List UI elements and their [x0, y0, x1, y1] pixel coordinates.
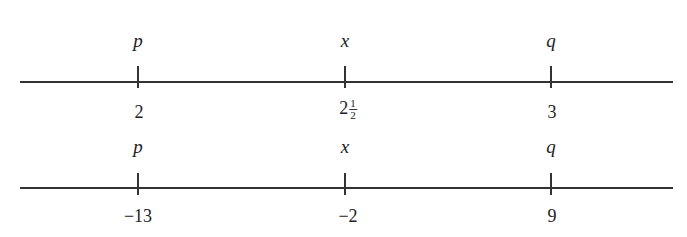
point-label-q: q — [546, 136, 556, 158]
mixed-number-whole: 2 — [339, 98, 348, 118]
point-label-x: x — [341, 136, 349, 158]
tick-q — [550, 66, 552, 88]
point-label-p: p — [133, 136, 143, 158]
number-line-1: p x q 2 212 3 — [0, 0, 687, 110]
tick-p — [137, 173, 139, 195]
point-label-p: p — [133, 30, 143, 52]
point-value-x: 212 — [339, 98, 357, 121]
number-line-2: p x q −13 −2 9 — [0, 120, 687, 230]
axis-line — [20, 187, 673, 189]
tick-x — [344, 173, 346, 195]
tick-p — [137, 66, 139, 88]
axis-line — [20, 81, 673, 83]
point-value-q: 9 — [548, 206, 557, 227]
point-value-x: −2 — [338, 206, 357, 227]
point-label-q: q — [546, 30, 556, 52]
point-label-x: x — [341, 30, 349, 52]
tick-q — [550, 173, 552, 195]
tick-x — [344, 66, 346, 88]
point-value-p: −13 — [124, 206, 152, 227]
mixed-number-fraction: 12 — [349, 98, 357, 121]
